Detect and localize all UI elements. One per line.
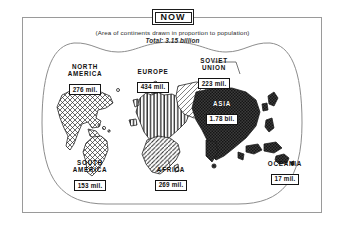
subtitle-line-1: (Area of continents drawn in proportion … [0, 29, 345, 37]
label-south-america-name: SOUTH AMERICA [57, 159, 123, 174]
page-title: NOW [161, 13, 186, 22]
figure-title-plate: NOW [152, 9, 194, 25]
label-north-america-value: 276 mil. [69, 84, 101, 95]
label-europe-name: EUROPE [126, 68, 180, 75]
label-asia-value: 1.78 bil. [206, 114, 238, 125]
cartogram-figure: NORTH AMERICA 276 mil. SOUTH AMERICA 153… [0, 0, 345, 231]
label-oceania-value: 17 mil. [271, 174, 299, 185]
label-north-america: NORTH AMERICA 276 mil. [52, 63, 118, 96]
figure-subtitle: (Area of continents drawn in proportion … [0, 29, 345, 46]
label-europe-value: 434 mil. [137, 82, 169, 93]
label-oceania-name: OCEANIA [258, 160, 312, 167]
label-north-america-name: NORTH AMERICA [52, 63, 118, 78]
label-europe: EUROPE 434 mil. [126, 68, 180, 93]
label-africa-value: 269 mil. [155, 180, 187, 191]
label-south-america-value: 153 mil. [74, 180, 106, 191]
label-south-america: SOUTH AMERICA 153 mil. [57, 159, 123, 192]
label-africa-name: AFRICA [145, 166, 197, 173]
label-oceania: OCEANIA 17 mil. [258, 160, 312, 185]
label-asia-name: ASIA [197, 100, 247, 107]
label-soviet-union: SOVIET UNION 223 mil. [192, 57, 236, 90]
label-soviet-union-name: SOVIET UNION [192, 57, 236, 72]
label-africa: AFRICA 269 mil. [145, 166, 197, 191]
label-asia: ASIA 1.78 bil. [197, 100, 247, 125]
subtitle-total: Total: 3.15 billion [0, 37, 345, 46]
label-soviet-union-value: 223 mil. [198, 78, 230, 89]
